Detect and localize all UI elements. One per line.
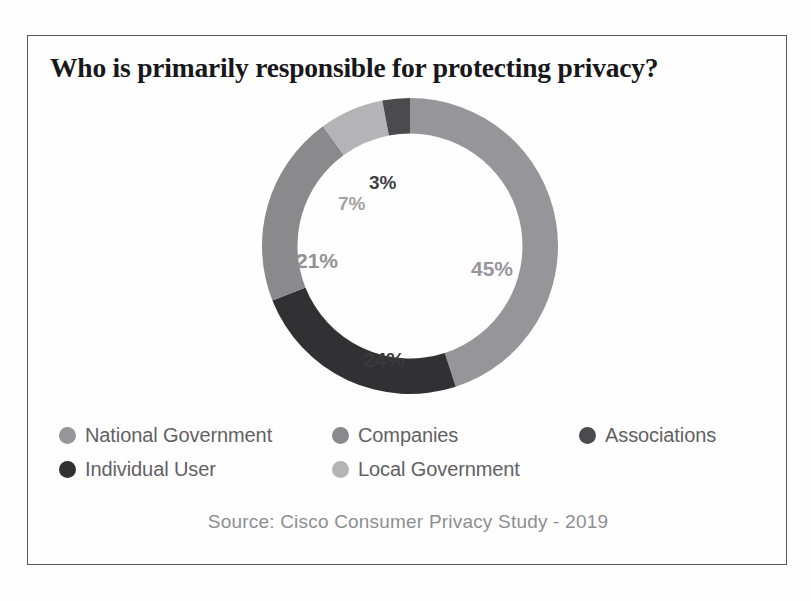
legend-item-associations: Associations	[579, 424, 716, 447]
chart-title: Who is primarily responsible for protect…	[50, 52, 766, 84]
legend-item-national-government: National Government	[59, 424, 272, 447]
donut-svg	[255, 91, 565, 401]
donut-slice-national-government	[410, 98, 558, 387]
legend-row-1: National Government Companies Associatio…	[59, 424, 759, 458]
source-note: Source: Cisco Consumer Privacy Study - 2…	[28, 511, 788, 533]
legend-item-individual-user: Individual User	[59, 458, 216, 481]
legend-swatch-icon-associations	[579, 427, 596, 444]
legend-label-companies: Companies	[358, 424, 458, 447]
slice-label-national-government: 45%	[471, 257, 513, 281]
legend-swatch-icon-individual-user	[59, 461, 76, 478]
legend-label-national-government: National Government	[85, 424, 272, 447]
slice-label-companies: 21%	[296, 249, 338, 273]
slice-label-individual-user: 24%	[363, 348, 405, 372]
figure-frame: Who is primarily responsible for protect…	[27, 35, 787, 565]
legend-swatch-icon-companies	[332, 427, 349, 444]
chart-legend: National Government Companies Associatio…	[59, 424, 759, 492]
legend-label-individual-user: Individual User	[85, 458, 216, 481]
donut-slice-individual-user	[272, 287, 455, 394]
legend-label-associations: Associations	[605, 424, 716, 447]
donut-slice-group	[262, 98, 558, 394]
figure-page: Who is primarily responsible for protect…	[0, 0, 811, 601]
legend-swatch-icon-national-government	[59, 427, 76, 444]
slice-label-associations: 3%	[369, 172, 396, 194]
legend-item-local-government: Local Government	[332, 458, 520, 481]
donut-chart	[255, 91, 565, 401]
donut-slice-companies	[262, 126, 344, 300]
legend-item-companies: Companies	[332, 424, 458, 447]
slice-label-local-government: 7%	[338, 193, 365, 215]
legend-row-2: Individual User Local Government	[59, 458, 759, 492]
legend-label-local-government: Local Government	[358, 458, 520, 481]
legend-swatch-icon-local-government	[332, 461, 349, 478]
